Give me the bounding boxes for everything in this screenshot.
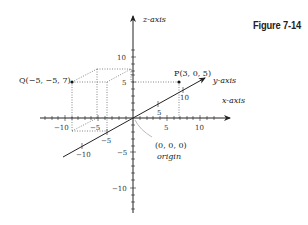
z-tick-neg10: −10 [112, 185, 127, 193]
x-tick-5: 5 [164, 124, 168, 132]
x-tick-10: 10 [195, 124, 204, 132]
z-axis [130, 16, 136, 213]
x-tick-neg10: −10 [54, 124, 69, 132]
origin-pointer [135, 120, 152, 137]
x-axis-label: x-axis [222, 96, 245, 105]
p-projection-lines [133, 82, 179, 118]
z-axis-label: z-axis [142, 15, 166, 24]
z-tick-neg5: −5 [117, 149, 127, 157]
coordinate-diagram: z-axis y-axis x-axis 10 5 −5 −10 −10 −5 … [0, 0, 308, 225]
point-p [177, 80, 180, 83]
point-p-label: P(3, 0, 5) [174, 69, 211, 78]
origin-coords-label: (0, 0, 0) [155, 141, 187, 150]
point-q [70, 80, 73, 83]
z-tick-5: 5 [122, 79, 126, 87]
point-q-label: Q(−5, −5, 7) [19, 76, 71, 85]
z-tick-10: 10 [117, 54, 126, 62]
x-tick-neg5: −5 [90, 124, 100, 132]
y-tick-neg10: −10 [76, 151, 91, 159]
origin-name-label: origin [157, 152, 181, 161]
figure-label: Figure 7-14 [253, 19, 301, 31]
y-tick-10: 10 [180, 94, 189, 102]
y-tick-5: 5 [157, 109, 161, 117]
y-tick-neg5: −5 [101, 137, 111, 145]
y-axis-label: y-axis [212, 76, 236, 85]
